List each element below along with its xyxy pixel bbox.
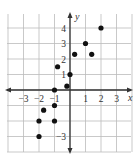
data-point [52, 103, 57, 108]
data-point [64, 84, 69, 89]
tick-labels: yx−3−2−11234321−3 [18, 11, 133, 142]
x-tick-label: −1 [49, 94, 59, 104]
data-point [52, 87, 57, 92]
y-tick-label: 2 [61, 55, 66, 65]
y-tick-label: 1 [61, 70, 66, 80]
data-point [36, 118, 41, 123]
data-point [55, 64, 60, 69]
y-arrow-down-icon [68, 148, 73, 154]
data-point [83, 41, 88, 46]
x-tick-label: 3 [114, 94, 119, 104]
y-tick-label: 3 [61, 39, 66, 49]
scatter-plot: yx−3−2−11234321−3 [0, 0, 135, 156]
axes [5, 12, 133, 154]
data-point [36, 134, 41, 139]
data-point [52, 118, 57, 123]
data-point [67, 72, 72, 77]
x-axis-label: x [127, 92, 133, 103]
x-tick-label: −3 [18, 94, 28, 104]
data-point [89, 52, 94, 57]
data-point [98, 25, 103, 30]
y-tick-label: 4 [61, 24, 66, 34]
data-point [72, 52, 77, 57]
y-axis-label: y [74, 11, 80, 22]
y-arrow-up-icon [68, 12, 73, 18]
y-tick-label: −3 [56, 132, 66, 142]
data-point [41, 108, 46, 113]
x-tick-label: −2 [34, 94, 44, 104]
x-tick-label: 1 [83, 94, 88, 104]
x-tick-label: 2 [99, 94, 104, 104]
